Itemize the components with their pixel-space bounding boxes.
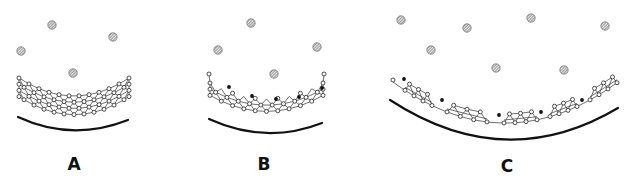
lattice-node [57,93,61,97]
lattice-node [107,87,111,91]
lattice-node [17,95,21,99]
diagram-figure: A B C [0,0,631,181]
membrane-arc [209,119,322,133]
lattice-node [17,76,21,80]
lattice-node [421,99,425,103]
lattice-node [452,103,456,107]
lattice-node [77,94,81,98]
lattice-node [47,103,51,107]
lattice-node [248,102,252,106]
lattice-node [27,94,31,98]
lattice-node [214,90,218,94]
lattice-node [321,93,325,97]
lattice-node [508,112,512,116]
lattice-node [67,94,71,98]
black-dot [402,77,406,81]
lattice-node [22,98,26,102]
lattice-node [117,82,121,86]
black-dot [580,98,584,102]
lattice-node [102,95,106,99]
lattice-node [276,109,280,113]
hatched-particle-icon [270,70,278,78]
hatched-particle-icon [397,16,405,24]
hatched-particle-icon [17,47,25,55]
black-dot [539,110,543,114]
lattice-node [219,99,223,103]
lattice-node [72,100,76,104]
hatched-particle-icon [492,64,500,72]
lattice-node [62,100,66,104]
lattice-node [225,95,229,99]
lattice-node [236,99,240,103]
lattice-node [408,82,412,86]
lattice-edges [393,77,618,123]
lattice-node [597,93,601,97]
lattice-node [298,104,302,108]
hatched-particle-icon [427,46,435,54]
hatched-particle-icon [214,46,222,54]
lattice-edges [209,74,324,111]
hatched-particle-icon [48,21,56,29]
lattice-node [52,110,56,114]
hatched-particle-icon [313,43,321,51]
hatched-particle-icon [560,66,568,74]
lattice-node [458,114,462,118]
lattice-node [57,105,61,109]
lattice-node [47,90,51,94]
lattice-node [253,96,257,100]
lattice-node [67,106,71,110]
lattice-edges [19,78,129,115]
lattice-node [265,109,269,113]
lattice-node [535,118,539,122]
lattice-node [17,88,21,92]
lattice-node [92,110,96,114]
lattice-node [208,87,212,91]
lattice-node [231,104,235,108]
lattice-node [321,81,325,85]
hatched-particle-icon [109,33,117,41]
lattice-node [445,110,449,114]
lattice-node [122,85,126,89]
lattice-node [72,113,76,117]
lattice-node [575,104,579,108]
lattice-node [298,91,302,95]
hatched-particle-icon [69,69,77,77]
lattice-node [82,112,86,116]
lattice-node [22,85,26,89]
lattice-node [62,112,66,116]
lattice-node [465,107,469,111]
lattice-node [502,121,506,125]
panel-b: B [207,19,326,174]
panel-c: C [390,14,619,176]
lattice-node [562,101,566,105]
lattice-node [112,103,116,107]
lattice-node [270,103,274,107]
lattice-node [606,87,610,91]
lattice-node [478,110,482,114]
lattice-node [472,118,476,122]
lattice-node [37,87,41,91]
panel-a: A [17,21,131,174]
lattice-node [208,81,212,85]
lattice-node [571,97,575,101]
lattice-node [82,100,86,104]
lattice-node [287,107,291,111]
hatched-particle-icon [527,14,535,22]
black-dot [250,94,254,98]
lattice-node [412,94,416,98]
lattice-node [602,81,606,85]
lattice-nodes [391,75,619,125]
lattice-node [426,92,430,96]
lattice-node [530,110,534,114]
lattice-node [259,103,263,107]
lattice-node [97,103,101,107]
lattice-node [253,109,257,113]
panel-label: B [258,154,271,174]
hatched-particle-icon [247,19,255,27]
lattice-node [107,99,111,103]
lattice-node [242,107,246,111]
lattice-node [87,93,91,97]
lattice-node [524,120,528,124]
lattice-node [417,87,421,91]
membrane-arc [18,117,128,130]
